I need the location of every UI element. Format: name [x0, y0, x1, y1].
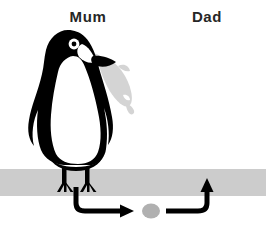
mum-eye-pupil — [72, 42, 77, 47]
label-mum: Mum — [70, 8, 107, 25]
penguin-egg-transfer-diagram: Mum Dad — [0, 0, 266, 230]
diagram-canvas: Mum Dad — [0, 0, 266, 230]
label-dad: Dad — [192, 8, 222, 25]
egg — [142, 204, 160, 219]
ground-bar — [0, 169, 266, 196]
